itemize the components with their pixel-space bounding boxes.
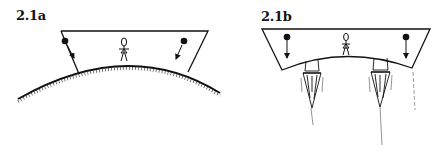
diagram-canvas bbox=[0, 0, 443, 150]
figure-2-1a bbox=[18, 31, 220, 102]
rocket-engine-right bbox=[369, 58, 392, 145]
ball-left bbox=[284, 34, 291, 41]
exhaust-streak bbox=[413, 72, 415, 110]
planet-surface bbox=[18, 66, 220, 102]
person-icon bbox=[119, 38, 129, 61]
rocket-engine-left bbox=[301, 60, 323, 125]
arrow-left bbox=[67, 45, 74, 58]
room-outline bbox=[61, 31, 208, 74]
ball-right bbox=[403, 34, 410, 41]
arrow-right bbox=[176, 45, 182, 59]
ball-left bbox=[62, 38, 69, 45]
figure-2-1b bbox=[262, 29, 430, 145]
ball-right bbox=[181, 38, 188, 45]
